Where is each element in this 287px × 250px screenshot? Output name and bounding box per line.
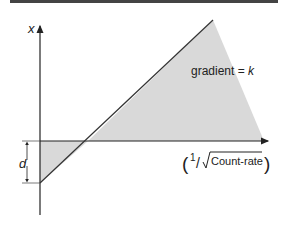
shaded-upper <box>88 20 264 141</box>
y-axis-label: x <box>27 21 35 36</box>
svg-text:(: ( <box>182 153 189 174</box>
gradient-label: gradient = k <box>191 64 255 78</box>
graph: x d gradient = k ( 1 / Count-rate ) <box>0 0 287 250</box>
svg-text:/: / <box>196 155 200 171</box>
svg-text:): ) <box>264 153 270 174</box>
intercept-label: d <box>19 156 27 171</box>
svg-text:Count-rate: Count-rate <box>211 155 263 167</box>
x-axis-label: ( 1 / Count-rate ) <box>182 152 270 174</box>
